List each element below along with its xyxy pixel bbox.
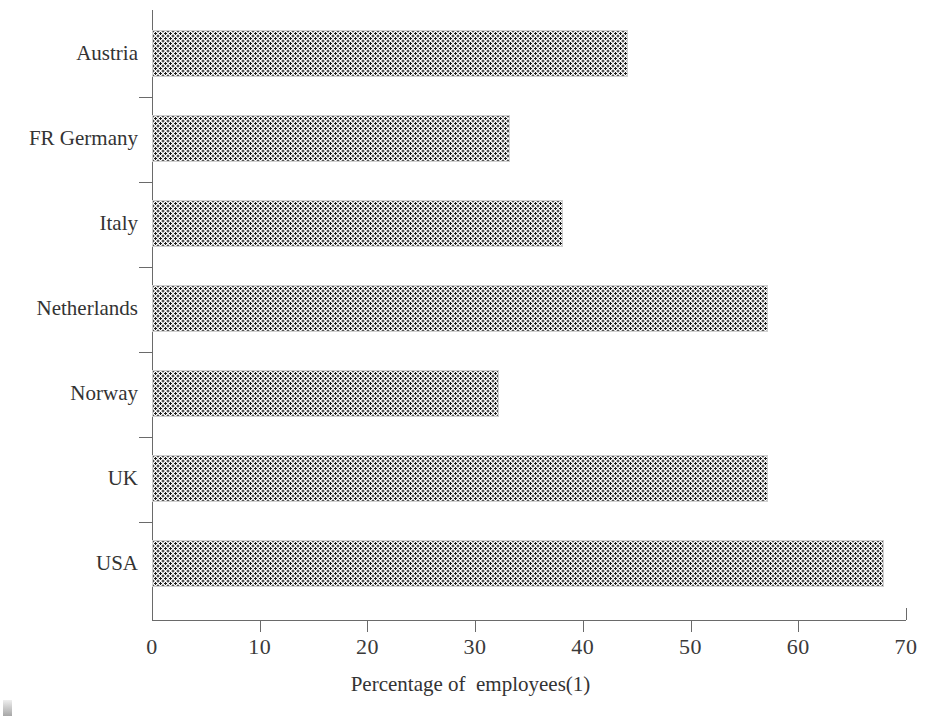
bar-italy <box>152 200 563 247</box>
x-tick-0 <box>152 608 153 620</box>
category-label-austria: Austria <box>0 43 138 64</box>
category-label-uk: UK <box>0 468 138 489</box>
x-tick-40 <box>583 620 584 632</box>
y-tick-4 <box>139 352 152 353</box>
x-tick-label-20: 20 <box>337 634 397 660</box>
x-tick-label-30: 30 <box>445 634 505 660</box>
x-tick-label-40: 40 <box>553 634 613 660</box>
x-tick-30 <box>475 620 476 632</box>
x-axis-line <box>152 620 906 621</box>
bar-usa <box>152 540 884 587</box>
bar-netherlands <box>152 285 768 332</box>
x-tick-label-50: 50 <box>661 634 721 660</box>
category-label-usa: USA <box>0 553 138 574</box>
x-tick-label-0: 0 <box>122 634 182 660</box>
category-label-fr-germany: FR Germany <box>0 128 138 149</box>
y-tick-2 <box>139 182 152 183</box>
x-tick-label-10: 10 <box>230 634 290 660</box>
category-label-netherlands: Netherlands <box>0 298 138 319</box>
scan-artifact-mark <box>3 700 12 716</box>
bar-norway <box>152 370 499 417</box>
category-label-norway: Norway <box>0 383 138 404</box>
bar-uk <box>152 455 768 502</box>
y-tick-3 <box>139 267 152 268</box>
x-tick-70 <box>906 608 907 620</box>
y-tick-6 <box>139 522 152 523</box>
x-tick-label-60: 60 <box>768 634 828 660</box>
x-tick-label-70: 70 <box>876 634 936 660</box>
x-tick-20 <box>367 620 368 632</box>
y-tick-1 <box>139 97 152 98</box>
x-tick-50 <box>691 620 692 632</box>
bar-austria <box>152 30 628 77</box>
x-tick-10 <box>260 620 261 632</box>
category-label-italy: Italy <box>0 213 138 234</box>
x-axis-title: Percentage of employees(1) <box>0 672 941 697</box>
bar-chart: 010203040506070 AustriaFR GermanyItalyNe… <box>0 0 941 726</box>
y-tick-5 <box>139 437 152 438</box>
bar-fr-germany <box>152 115 510 162</box>
x-tick-60 <box>798 620 799 632</box>
